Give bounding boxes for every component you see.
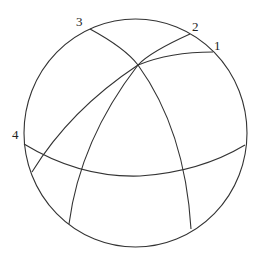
sphere-diagram: 1 2 3 4 [0,0,260,259]
arc-meridian-lower-left [69,65,138,224]
arc-through-point-3 [90,29,191,229]
label-point-4: 4 [12,127,19,142]
label-point-1: 1 [214,38,221,53]
arc-to-point-1 [138,52,213,65]
label-point-2: 2 [192,19,199,34]
label-point-3: 3 [76,14,83,29]
arc-through-point-4 [24,144,245,176]
sphere-outline [24,19,247,247]
arc-through-point-2 [32,34,190,172]
